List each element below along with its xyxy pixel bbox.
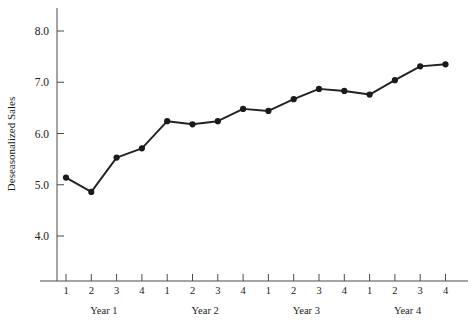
x-axis-ticks [66,274,446,281]
x-tick-label: 3 [114,285,119,296]
x-tick-label: 4 [342,285,348,296]
x-tick-label: 2 [89,285,94,296]
y-tick-label: 8.0 [35,25,50,37]
data-point [88,189,94,195]
data-point [341,88,347,94]
data-point [114,154,120,160]
data-point [442,61,448,67]
data-point [392,77,398,83]
y-axis-title: Deseasonalized Sales [5,97,17,191]
series-markers [63,61,449,195]
y-tick-label: 7.0 [35,76,50,88]
data-point [215,118,221,124]
x-tick-label: 4 [139,285,145,296]
series-line-deseasonalized-sales [66,64,446,192]
x-axis: 1234123412341234 Year 1Year 2Year 3Year … [40,274,468,316]
x-tick-label: 1 [165,285,170,296]
x-tick-label: 2 [190,285,195,296]
data-point [367,91,373,97]
data-point [417,63,423,69]
x-tick-label: 2 [392,285,397,296]
y-axis: 4.05.06.07.08.0 Deseasonalized Sales [5,8,64,281]
chart-container: 4.05.06.07.08.0 Deseasonalized Sales 123… [0,0,473,324]
x-tick-label: 3 [215,285,220,296]
line-chart: 4.05.06.07.08.0 Deseasonalized Sales 123… [0,0,473,324]
y-axis-ticks [57,31,64,236]
data-point [240,106,246,112]
y-axis-tick-labels: 4.05.06.07.08.0 [35,25,50,242]
x-tick-label: 3 [316,285,321,296]
y-tick-label: 6.0 [35,128,50,140]
data-point [164,118,170,124]
x-tick-label: 1 [266,285,271,296]
y-tick-label: 5.0 [35,179,50,191]
x-tick-label: 1 [367,285,372,296]
x-tick-label: 1 [63,285,68,296]
x-tick-label: 4 [240,285,246,296]
data-point [265,108,271,114]
plot-area [63,61,449,195]
x-axis-tick-labels: 1234123412341234 [63,285,449,296]
data-point [291,96,297,102]
x-tick-label: 3 [418,285,423,296]
x-axis-group-label: Year 2 [192,305,219,316]
x-tick-label: 2 [291,285,296,296]
y-tick-label: 4.0 [35,230,50,242]
x-axis-group-labels: Year 1Year 2Year 3Year 4 [90,305,422,316]
x-axis-group-label: Year 1 [90,305,117,316]
data-point [189,121,195,127]
x-tick-label: 4 [443,285,449,296]
data-point [316,86,322,92]
x-axis-group-label: Year 4 [394,305,422,316]
data-point [63,174,69,180]
data-point [139,145,145,151]
x-axis-group-label: Year 3 [293,305,320,316]
